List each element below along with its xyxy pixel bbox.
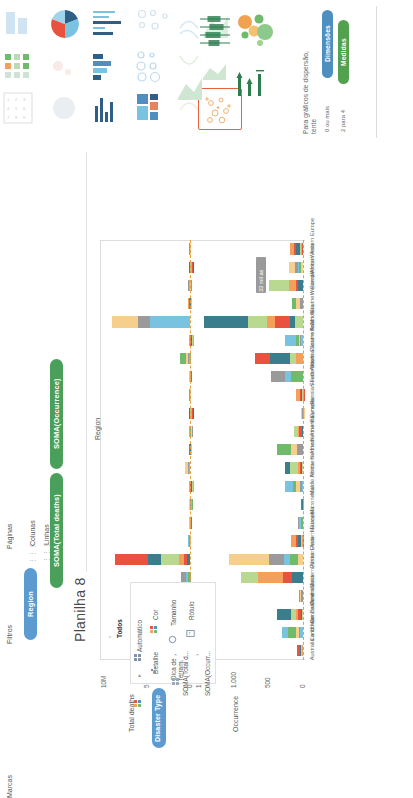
color-icon[interactable] <box>150 626 159 635</box>
bar-segment[interactable] <box>112 316 139 327</box>
bar-segment[interactable] <box>285 335 295 346</box>
measure-card-total-deaths-caret-icon[interactable]: ⌄ <box>172 650 179 660</box>
bar-segment[interactable] <box>275 316 289 327</box>
bar-segment[interactable] <box>191 517 192 528</box>
bar-segment[interactable] <box>289 280 296 291</box>
chart-annotation: 33 mil as <box>256 257 266 293</box>
show-me-thumb-circle-view[interactable] <box>132 46 174 86</box>
show-me-thumb-filled-map[interactable] <box>44 46 86 86</box>
mark-type-label[interactable]: Automático <box>136 596 143 652</box>
bar-segment[interactable] <box>285 481 292 492</box>
pill-soma-total-deaths[interactable]: SOMA(Total deaths) <box>50 473 63 588</box>
show-me-thumb-side-by-side-circle[interactable] <box>132 88 174 128</box>
svg-text:1: 1 <box>7 97 10 102</box>
bar-segment[interactable] <box>296 353 303 364</box>
marks-expand-caret-icon[interactable]: ‹ <box>106 608 113 638</box>
bar-segment[interactable] <box>291 371 303 382</box>
bar-segment[interactable] <box>290 462 298 473</box>
pill-region[interactable]: Region <box>24 568 37 640</box>
svg-text:9: 9 <box>23 115 26 120</box>
svg-text:T: T <box>188 631 191 636</box>
detail-icon[interactable] <box>150 660 159 669</box>
size-icon[interactable] <box>168 630 177 639</box>
show-me-thumb-bullet-graph[interactable] <box>172 62 218 108</box>
show-me-panel[interactable]: 123 456 789 <box>0 0 413 152</box>
label-icon[interactable]: T <box>186 624 195 633</box>
marks-label-label[interactable]: Rótulo <box>188 592 195 620</box>
marks-all-label[interactable]: Todos <box>116 606 123 638</box>
svg-text:4: 4 <box>7 106 10 111</box>
bar-segment[interactable] <box>150 316 190 327</box>
svg-text:8: 8 <box>15 115 18 120</box>
bar-segment[interactable] <box>270 353 290 364</box>
bar-segment[interactable] <box>192 499 193 510</box>
marks-color-label[interactable]: Cor <box>152 596 159 620</box>
show-me-thumb-highlight-table[interactable]: 123 456 789 <box>0 88 42 128</box>
show-me-thumb-gantt[interactable] <box>228 58 278 104</box>
bar-segment[interactable] <box>193 262 194 273</box>
bar-segment[interactable] <box>192 426 193 437</box>
mark-type-icon <box>134 654 143 663</box>
svg-text:5: 5 <box>15 106 18 111</box>
bar-segment[interactable] <box>271 371 285 382</box>
show-me-hint-block: Para gráficos de dispersão, tente 0 ou m… <box>300 6 360 146</box>
bar-segment[interactable] <box>191 371 192 382</box>
show-me-thumb-pie-chart[interactable] <box>44 88 86 128</box>
show-me-thumb-side-by-side-bar[interactable] <box>88 88 130 128</box>
bar-segment[interactable] <box>248 316 267 327</box>
measure-card-occurrence-caret-icon[interactable]: ⌄ <box>194 650 201 660</box>
show-me-hint-line2: tente <box>310 6 318 134</box>
marks-pill-color-icon <box>134 700 143 709</box>
bar-segment[interactable] <box>191 280 192 291</box>
bar-segment[interactable] <box>204 316 249 327</box>
bar-segment[interactable] <box>161 554 179 565</box>
show-me-thumb-treemap[interactable] <box>132 4 174 44</box>
measure-card-icon-1 <box>172 678 181 687</box>
pill-soma-occurrence[interactable]: SOMA(Occurrence) <box>50 359 63 469</box>
bar-segment[interactable] <box>290 554 298 565</box>
svg-text:7: 7 <box>7 115 10 120</box>
bar-segment[interactable] <box>193 481 194 492</box>
svg-text:2: 2 <box>15 97 18 102</box>
reference-line <box>303 240 304 660</box>
show-me-thumb-horizontal-bar[interactable] <box>88 4 130 44</box>
show-me-measures-pill: Medidas <box>338 20 349 84</box>
marks-shelf-label: Marcas <box>6 754 13 798</box>
svg-text:3: 3 <box>23 97 26 102</box>
bar-segment[interactable] <box>229 554 269 565</box>
bar-segment[interactable] <box>267 316 275 327</box>
show-me-divider <box>376 6 377 138</box>
show-me-thumb-text-table[interactable] <box>0 4 42 44</box>
show-me-dimensions-requirement: 0 ou mais <box>324 74 330 132</box>
bar-segment[interactable] <box>115 554 147 565</box>
show-me-thumb-heat-map[interactable] <box>0 46 42 86</box>
show-me-thumb-stacked-bar[interactable] <box>88 46 130 86</box>
bar-segment[interactable] <box>148 554 162 565</box>
panel-divider-left <box>86 152 87 572</box>
mark-type-dropdown-caret-icon[interactable]: ▾ <box>136 672 143 680</box>
bar-segment[interactable] <box>193 335 194 346</box>
bar-segment[interactable] <box>277 444 292 455</box>
measure-card-occurrence[interactable]: SOMA(Occurr... <box>204 648 211 696</box>
marks-size-label[interactable]: Tamanho <box>170 592 177 626</box>
bar-segment[interactable] <box>138 316 150 327</box>
bar-segment[interactable] <box>191 444 192 455</box>
bar-segment[interactable] <box>304 408 305 419</box>
show-me-hint-line1: Para gráficos de dispersão, <box>302 6 310 134</box>
bar-segment[interactable] <box>255 353 270 364</box>
svg-text:6: 6 <box>23 106 26 111</box>
bar-segment[interactable] <box>295 316 303 327</box>
show-me-dimensions-pill: Dimensões <box>322 10 333 78</box>
measure-card-total-deaths[interactable]: SOMA(Total d... <box>182 648 189 696</box>
worksheet-area: Páginas Filtros Marcas ⋮⋮⋮ Colunas ⋮⋮⋮ L… <box>0 152 413 699</box>
bar-segment[interactable] <box>193 408 194 419</box>
show-me-thumb-symbol-map[interactable] <box>44 4 86 44</box>
measure-marks-cards[interactable]: SOMA(Total d... ⌄ SOMA(Occurr... ⌄ <box>160 642 320 699</box>
bar-segment[interactable] <box>269 554 284 565</box>
show-me-thumb-packed-bubbles[interactable] <box>232 10 286 58</box>
bar-segment[interactable] <box>269 280 289 291</box>
